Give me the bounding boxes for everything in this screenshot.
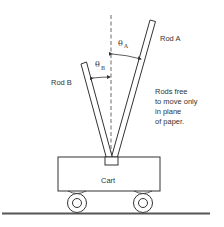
cart-label: Cart xyxy=(101,176,116,185)
theta-b-symbol: θ xyxy=(95,60,100,69)
theta-a-arc xyxy=(112,54,141,59)
theta-a-subscript: A xyxy=(123,43,129,49)
note-text: Rods free to move only in plane of paper… xyxy=(155,87,198,126)
theta-b-arc xyxy=(93,77,110,78)
rods-on-cart-diagram: θ A θ B Rod A Rod B Rods free to move on… xyxy=(0,0,224,227)
theta-a-symbol: θ xyxy=(118,39,123,48)
pivot-block xyxy=(105,157,118,165)
note-line-2: to move only xyxy=(155,97,198,106)
rod-a-label: Rod A xyxy=(160,34,180,43)
wheel-left xyxy=(68,194,87,213)
theta-b-subscript: B xyxy=(101,65,105,71)
note-line-3: in plane xyxy=(155,107,181,116)
rod-b-label: Rod B xyxy=(51,78,72,87)
wheel-right xyxy=(134,194,153,213)
note-line-1: Rods free xyxy=(155,87,188,96)
note-line-4: of paper. xyxy=(155,117,184,126)
